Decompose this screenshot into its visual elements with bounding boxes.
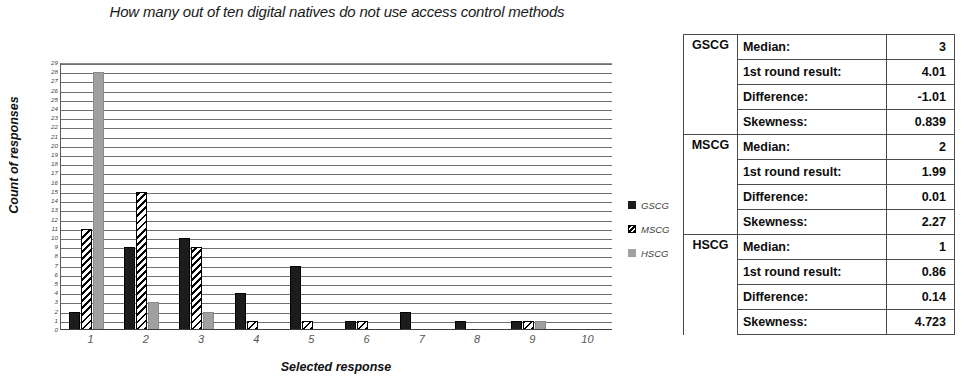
table-cell-label: Skewness: bbox=[737, 310, 886, 335]
bar-chart-panel: How many out of ten digital natives do n… bbox=[0, 0, 665, 387]
y-axis-tick-label: 29 bbox=[26, 60, 58, 66]
table-cell-label: 1st round result: bbox=[737, 60, 886, 85]
table-cell-value: 1.99 bbox=[887, 160, 955, 185]
x-axis-tick-labels: 12345678910 bbox=[60, 333, 612, 353]
bar-gscg-2 bbox=[124, 247, 135, 330]
legend-swatch-mscg-icon bbox=[628, 225, 636, 233]
y-axis-tick-label: 21 bbox=[26, 134, 58, 140]
chart-and-stats-figure: How many out of ten digital natives do n… bbox=[0, 0, 963, 387]
legend-swatch-gscg-icon bbox=[628, 201, 636, 209]
y-axis-tick-label: 20 bbox=[26, 143, 58, 149]
table-group-name-mscg: MSCG bbox=[684, 135, 738, 235]
table-cell-label: Difference: bbox=[737, 285, 886, 310]
bar-group bbox=[558, 64, 613, 330]
table-cell-value: 0.86 bbox=[887, 260, 955, 285]
table-cell-label: 1st round result: bbox=[737, 260, 886, 285]
y-axis-tick-label: 26 bbox=[26, 88, 58, 94]
y-axis-tick-label: 1 bbox=[26, 318, 58, 324]
table-cell-label: Difference: bbox=[737, 185, 886, 210]
table-group-name-hscg: HSCG bbox=[684, 235, 738, 335]
x-axis-title: Selected response bbox=[60, 360, 612, 374]
legend-item-label: HSCG bbox=[641, 248, 668, 259]
y-axis-tick-label: 4 bbox=[26, 290, 58, 296]
bar-gscg-4 bbox=[235, 293, 246, 330]
bar-group bbox=[116, 64, 171, 330]
y-axis-tick-label: 7 bbox=[26, 262, 58, 268]
y-axis-tick-label: 0 bbox=[26, 327, 58, 333]
x-axis-tick-label: 10 bbox=[567, 333, 607, 345]
y-axis-tick-label: 27 bbox=[26, 78, 58, 84]
table-cell-value: 4.01 bbox=[887, 60, 955, 85]
table-cell-label: Skewness: bbox=[737, 210, 886, 235]
table-cell-value: 1 bbox=[887, 235, 955, 260]
y-axis-tick-label: 23 bbox=[26, 115, 58, 121]
table-cell-label: Median: bbox=[737, 35, 886, 60]
x-axis-tick-label: 2 bbox=[126, 333, 166, 345]
x-axis-tick-label: 9 bbox=[512, 333, 552, 345]
x-axis-tick-label: 5 bbox=[291, 333, 331, 345]
bar-gscg-3 bbox=[179, 238, 190, 330]
bar-group bbox=[227, 64, 282, 330]
y-axis-tick-label: 2 bbox=[26, 308, 58, 314]
x-axis-tick-label: 6 bbox=[347, 333, 387, 345]
bar-group bbox=[503, 64, 558, 330]
legend-swatch-hscg-icon bbox=[628, 249, 636, 257]
x-axis-line bbox=[61, 329, 612, 330]
y-axis-tick-label: 12 bbox=[26, 216, 58, 222]
table-row: HSCGMedian:1 bbox=[684, 235, 955, 260]
plot-area bbox=[60, 63, 612, 330]
bar-group bbox=[337, 64, 392, 330]
table-cell-value: 3 bbox=[887, 35, 955, 60]
x-axis-tick-label: 4 bbox=[236, 333, 276, 345]
chart-legend: GSCGMSCGHSCG bbox=[628, 193, 684, 265]
table-group-name-gscg: GSCG bbox=[684, 35, 738, 135]
bar-hscg-2 bbox=[148, 302, 159, 330]
y-axis-tick-label: 17 bbox=[26, 170, 58, 176]
y-axis-tick-label: 24 bbox=[26, 106, 58, 112]
y-axis-tick-label: 15 bbox=[26, 189, 58, 195]
y-axis-tick-label: 8 bbox=[26, 253, 58, 259]
chart-title: How many out of ten digital natives do n… bbox=[52, 2, 622, 21]
legend-item-gscg[interactable]: GSCG bbox=[628, 193, 684, 217]
table-cell-value: 0.01 bbox=[887, 185, 955, 210]
y-axis-tick-label: 14 bbox=[26, 198, 58, 204]
table-cell-value: 2 bbox=[887, 135, 955, 160]
bar-mscg-3 bbox=[191, 247, 202, 330]
table-cell-label: Difference: bbox=[737, 85, 886, 110]
table-cell-label: Median: bbox=[737, 235, 886, 260]
y-axis-tick-label: 22 bbox=[26, 124, 58, 130]
table-cell-value: 2.27 bbox=[887, 210, 955, 235]
y-axis-tick-label: 5 bbox=[26, 281, 58, 287]
bar-hscg-1 bbox=[93, 72, 104, 330]
bar-group bbox=[392, 64, 447, 330]
y-axis-tick-label: 3 bbox=[26, 299, 58, 305]
legend-item-label: GSCG bbox=[641, 200, 669, 211]
y-axis-tick-label: 16 bbox=[26, 180, 58, 186]
table-row: GSCGMedian:3 bbox=[684, 35, 955, 60]
bar-gscg-5 bbox=[290, 266, 301, 330]
legend-item-label: MSCG bbox=[641, 224, 670, 235]
x-axis-tick-label: 7 bbox=[402, 333, 442, 345]
legend-item-hscg[interactable]: HSCG bbox=[628, 241, 684, 265]
bar-mscg-1 bbox=[81, 229, 92, 330]
table-cell-value: 4.723 bbox=[887, 310, 955, 335]
y-axis-tick-label: 28 bbox=[26, 69, 58, 75]
table-cell-value: -1.01 bbox=[887, 85, 955, 110]
legend-item-mscg[interactable]: MSCG bbox=[628, 217, 684, 241]
bar-hscg-3 bbox=[203, 312, 214, 330]
y-axis-tick-label: 13 bbox=[26, 207, 58, 213]
y-axis-title: Count of responses bbox=[7, 75, 21, 235]
y-axis-tick-label: 19 bbox=[26, 152, 58, 158]
table-cell-label: 1st round result: bbox=[737, 160, 886, 185]
y-axis-tick-label: 11 bbox=[26, 226, 58, 232]
table-cell-value: 0.14 bbox=[887, 285, 955, 310]
bar-group bbox=[447, 64, 502, 330]
table-cell-value: 0.839 bbox=[887, 110, 955, 135]
y-axis-tick-label: 10 bbox=[26, 235, 58, 241]
bar-mscg-2 bbox=[136, 192, 147, 330]
y-axis-tick-label: 18 bbox=[26, 161, 58, 167]
bar-group bbox=[61, 64, 116, 330]
bar-gscg-7 bbox=[400, 312, 411, 330]
table-cell-label: Skewness: bbox=[737, 110, 886, 135]
y-axis-tick-label: 9 bbox=[26, 244, 58, 250]
